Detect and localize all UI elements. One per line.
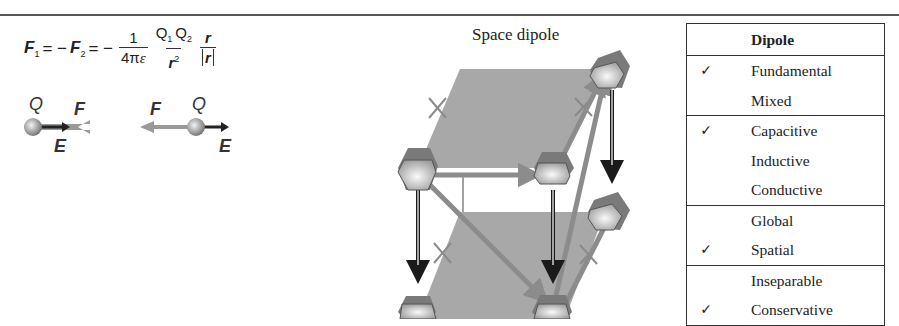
check-icon: ✓: [687, 295, 726, 325]
right-charge-label: Q: [192, 94, 206, 115]
unit-vector-fraction: r r: [200, 29, 216, 68]
equals-minus-1: = −: [42, 39, 67, 59]
table-row: Inseparable: [687, 265, 885, 295]
upper-plane: [418, 69, 605, 168]
force-1-symbol: F1: [24, 38, 39, 59]
right-field-label: E: [219, 136, 231, 157]
left-force-label: F: [74, 99, 85, 120]
right-force-label: F: [150, 99, 161, 120]
table-row: Conductive: [687, 175, 885, 205]
table-row: Mixed: [687, 86, 885, 116]
left-charge-label: Q: [29, 94, 43, 115]
top-rule: [0, 14, 899, 16]
table-row: ✓Fundamental: [687, 56, 885, 86]
coulomb-constant-fraction: 1 4πε: [119, 29, 148, 68]
table-row: ✓Conservative: [687, 295, 885, 325]
force-2-symbol: F2: [70, 38, 85, 59]
space-dipole-diagram: [380, 40, 660, 319]
equals-minus-2: = −: [88, 39, 113, 59]
table-row: Inductive: [687, 146, 885, 176]
table-row: ✓Capacitive: [687, 116, 885, 146]
table-header: Dipole: [687, 24, 885, 56]
dipole-classification-table: Dipole ✓Fundamental Mixed ✓Capacitive In…: [686, 23, 885, 326]
check-icon: ✓: [687, 116, 726, 146]
table-row: Global: [687, 205, 885, 235]
check-icon: ✓: [687, 56, 726, 86]
left-field-label: E: [54, 136, 66, 157]
charge-force-illustration: Q F E F Q E: [0, 90, 300, 190]
coulomb-formula: F1 = − F2 = − 1 4πε Q1 Q2 r2 r r: [24, 24, 219, 73]
table-row: ✓Spatial: [687, 235, 885, 265]
check-icon: ✓: [687, 235, 726, 265]
charge-product-fraction: Q1 Q2 r2: [154, 24, 194, 73]
